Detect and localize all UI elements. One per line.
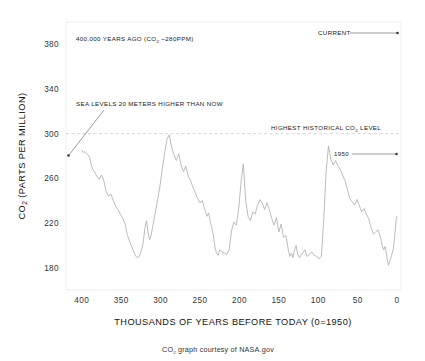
- annotation-hist-text-after: LEVEL: [358, 124, 381, 131]
- x-tick-label: 350: [114, 296, 129, 305]
- sea-levels-leader-line: [69, 110, 104, 155]
- x-tick-label: 150: [271, 296, 286, 305]
- x-tick-label: 250: [193, 296, 208, 305]
- x-tick-label: 100: [311, 296, 326, 305]
- y-axis-title: CO2 (PARTS PER MILLION): [17, 92, 28, 219]
- co2-chart-figure: 180220260300340380 400350300250200150100…: [0, 0, 425, 361]
- sea-levels-leader-dot: [67, 154, 70, 157]
- annotation-400k-text-after: ~280PPM): [159, 35, 193, 42]
- x-axis-tick-labels: 400350300250200150100500: [74, 296, 399, 305]
- x-tick-label: 50: [353, 296, 363, 305]
- y-tick-label: 340: [44, 85, 59, 94]
- plot-frame: [66, 22, 401, 290]
- annotation-current-label: CURRENT: [318, 29, 351, 36]
- y-axis-tick-labels: 180220260300340380: [44, 40, 59, 272]
- annotation-hist-text-before: HIGHEST HISTORICAL CO: [271, 124, 355, 131]
- y-tick-label: 260: [44, 174, 59, 183]
- y-axis-title-main: CO: [17, 205, 27, 220]
- current-arrow-head: [396, 32, 399, 35]
- annotation-sea-levels: SEA LEVELS 20 METERS HIGHER THAN NOW: [76, 100, 223, 107]
- y-tick-label: 300: [44, 130, 59, 139]
- year-1950-arrow-head: [395, 153, 398, 156]
- y-tick-label: 380: [44, 40, 59, 49]
- chart-canvas: 180220260300340380 400350300250200150100…: [0, 0, 425, 361]
- svg-text:CO2 (PARTS PER MILLION): CO2 (PARTS PER MILLION): [17, 92, 28, 219]
- y-axis-title-rest: (PARTS PER MILLION): [17, 92, 27, 200]
- caption-text-after: graph courtesy of NASA.gov: [176, 345, 274, 354]
- x-axis-title: THOUSANDS OF YEARS BEFORE TODAY (0=1950): [114, 317, 351, 327]
- annotation-1950-label: 1950: [334, 150, 349, 157]
- y-tick-label: 180: [44, 264, 59, 273]
- y-tick-label: 220: [44, 219, 59, 228]
- x-tick-label: 400: [74, 296, 89, 305]
- x-tick-label: 300: [153, 296, 168, 305]
- figure-caption: CO2 graph courtesy of NASA.gov: [162, 345, 274, 355]
- annotation-400000-years-ago: 400.000 YEARS AGO (CO2 ~280PPM): [76, 35, 194, 44]
- annotation-400k-text-before: 400.000 YEARS AGO (CO: [76, 35, 157, 42]
- annotation-highest-historical-level: HIGHEST HISTORICAL CO2 LEVEL: [271, 124, 381, 133]
- caption-text-before: CO: [162, 345, 173, 354]
- x-tick-label: 0: [395, 296, 400, 305]
- x-tick-label: 200: [232, 296, 247, 305]
- co2-data-line: [82, 135, 397, 266]
